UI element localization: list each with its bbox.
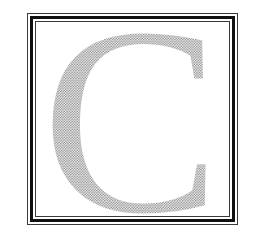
initial-letter: C bbox=[42, 0, 221, 236]
decorative-initial: C bbox=[0, 0, 255, 236]
